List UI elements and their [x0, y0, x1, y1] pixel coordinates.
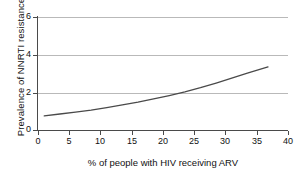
x-tick-label-5: 5	[57, 136, 81, 146]
x-tick-0	[38, 131, 39, 135]
gridline-6	[38, 17, 288, 18]
chart-container: Prevalence of NNRTI resistance 6 4 2 0 0…	[0, 0, 301, 183]
y-tick-2	[33, 93, 37, 94]
x-tick-25	[194, 131, 195, 135]
gridline-2	[38, 93, 288, 94]
y-tick-label-6: 6	[5, 12, 31, 21]
x-tick-5	[69, 131, 70, 135]
y-tick-4	[33, 55, 37, 56]
y-tick-6	[33, 17, 37, 18]
x-tick-label-0: 0	[26, 136, 50, 146]
x-tick-label-40: 40	[276, 136, 300, 146]
x-axis-title: % of people with HIV receiving ARV	[38, 157, 288, 168]
x-tick-20	[163, 131, 164, 135]
y-tick-label-0: 0	[5, 125, 31, 134]
x-tick-10	[100, 131, 101, 135]
y-tick-label-4: 4	[5, 50, 31, 59]
x-tick-35	[257, 131, 258, 135]
x-tick-label-10: 10	[88, 136, 112, 146]
plot-curve-layer	[0, 0, 301, 183]
x-tick-label-25: 25	[182, 136, 206, 146]
x-tick-15	[132, 131, 133, 135]
series-line-nnrti-resistance	[44, 67, 268, 116]
gridline-4	[38, 55, 288, 56]
x-tick-label-30: 30	[213, 136, 237, 146]
x-tick-label-20: 20	[151, 136, 175, 146]
x-tick-label-15: 15	[120, 136, 144, 146]
x-tick-30	[225, 131, 226, 135]
x-tick-label-35: 35	[245, 136, 269, 146]
y-tick-label-2: 2	[5, 88, 31, 97]
y-axis-line	[37, 16, 38, 131]
x-tick-40	[288, 131, 289, 135]
y-tick-0	[33, 130, 37, 131]
